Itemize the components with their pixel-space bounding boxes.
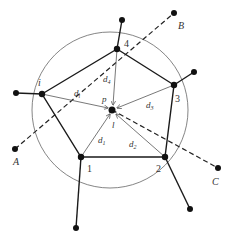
- pentagon-polygon: [42, 49, 174, 157]
- vertex-1: [78, 154, 84, 160]
- vertex-2: [162, 154, 168, 160]
- vertex-label-4: 4: [124, 38, 129, 49]
- vertex-label-1: 1: [87, 163, 92, 174]
- distance-label-di: di: [74, 88, 81, 99]
- outer-spokes: [16, 20, 194, 228]
- point-label-a: A: [12, 156, 20, 167]
- point-label-c: C: [212, 176, 219, 187]
- vertex-label-2: 2: [156, 163, 161, 174]
- distance-label-d4: d4: [103, 74, 111, 85]
- point-a: [12, 146, 18, 152]
- network-diagram: i 4 3 2 1 p l d4 di d3 d1 d2 A B C: [0, 0, 228, 243]
- vertex-i: [39, 91, 45, 97]
- distance-label-d3: d3: [146, 100, 154, 111]
- vertex-3: [171, 82, 177, 88]
- point-label-b: B: [178, 20, 184, 31]
- vertex-4: [114, 46, 120, 52]
- point-c: [215, 165, 221, 171]
- center-node: [109, 107, 116, 114]
- distance-label-d2: d2: [129, 139, 137, 150]
- vertex-label-i: i: [38, 77, 41, 88]
- center-label-p: p: [101, 94, 107, 104]
- distance-label-d1: d1: [98, 135, 106, 146]
- pentagon-vertices: [39, 46, 177, 160]
- vertex-label-3: 3: [175, 93, 180, 104]
- outer-nodes: [12, 10, 221, 231]
- distance-arrows: [42, 49, 174, 157]
- center-label-l: l: [112, 120, 115, 130]
- point-b: [171, 10, 177, 16]
